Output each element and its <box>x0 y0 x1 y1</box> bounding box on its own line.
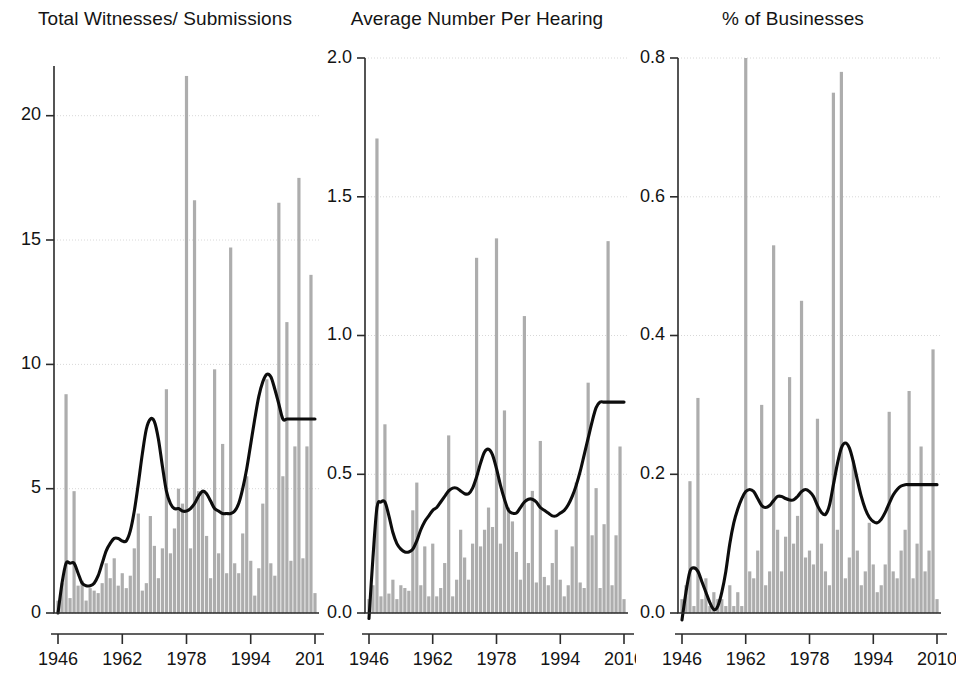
bar <box>431 544 434 613</box>
y-tick-label: 0.8 <box>640 47 665 67</box>
bar <box>531 491 534 613</box>
bar <box>399 585 402 613</box>
x-tick-label: 1946 <box>662 649 702 669</box>
three-panel-figure: Total Witnesses/ Submissions 05101520194… <box>0 0 956 684</box>
bar <box>145 583 148 613</box>
bar <box>931 349 934 613</box>
bar <box>101 583 104 613</box>
bar <box>479 546 482 613</box>
x-tick-label: 1994 <box>231 649 271 669</box>
bar <box>740 606 743 613</box>
bar <box>391 580 394 613</box>
x-tick-label: 1978 <box>166 649 206 669</box>
bar <box>595 488 598 613</box>
y-tick-label: 0.5 <box>327 463 352 483</box>
bar <box>752 578 755 613</box>
plot-area-average: 0.00.51.01.52.019461962197819942010 <box>318 0 636 684</box>
bar <box>696 398 699 613</box>
bar <box>85 601 88 613</box>
bar <box>688 481 691 613</box>
bar <box>379 596 382 613</box>
bar <box>760 405 763 613</box>
bar <box>535 582 538 613</box>
bar <box>927 551 930 613</box>
bar <box>579 582 582 613</box>
bar <box>459 530 462 613</box>
bar <box>273 576 276 613</box>
bar <box>217 553 220 613</box>
bar <box>919 447 922 614</box>
panel-average-number: Average Number Per Hearing 0.00.51.01.52… <box>318 0 636 684</box>
bar <box>245 476 248 613</box>
bar <box>483 530 486 613</box>
bar <box>117 586 120 613</box>
bar <box>133 548 136 613</box>
bar <box>197 491 200 613</box>
bar <box>419 585 422 613</box>
x-tick-label: 1946 <box>349 649 389 669</box>
bar <box>567 585 570 613</box>
bar <box>599 588 602 613</box>
bar <box>780 571 783 613</box>
bar <box>820 544 823 613</box>
y-tick-label: 2.0 <box>327 47 352 67</box>
bar <box>904 530 907 613</box>
bar <box>137 514 140 613</box>
bar <box>591 535 594 613</box>
bar <box>475 258 478 613</box>
bar <box>614 535 617 613</box>
x-tick-label: 1978 <box>476 649 516 669</box>
bar <box>768 571 771 613</box>
bar <box>415 483 418 613</box>
y-axis-ticks: 0.00.20.40.60.8 <box>640 47 678 622</box>
bar <box>403 588 406 613</box>
bar <box>451 596 454 613</box>
bar <box>880 585 883 613</box>
bar-series-average <box>367 138 625 613</box>
panel-total-witnesses: Total Witnesses/ Submissions 05101520194… <box>6 0 324 684</box>
bar <box>269 563 272 613</box>
bar <box>411 510 414 613</box>
bar <box>776 530 779 613</box>
bar <box>923 571 926 613</box>
bar <box>395 599 398 613</box>
bar <box>507 508 510 613</box>
bar <box>383 424 386 613</box>
bar <box>305 446 308 613</box>
bar <box>97 593 100 613</box>
bar <box>872 564 875 613</box>
bar <box>105 563 108 613</box>
bar <box>193 200 196 613</box>
bar <box>221 444 224 613</box>
bar <box>467 580 470 613</box>
bar <box>201 491 204 613</box>
bar <box>844 578 847 613</box>
bar <box>856 551 859 613</box>
bar <box>149 516 152 613</box>
bar <box>800 301 803 613</box>
bar <box>571 546 574 613</box>
bar <box>772 245 775 613</box>
bar <box>435 596 438 613</box>
bar <box>313 593 316 613</box>
bar <box>257 568 260 613</box>
bar <box>796 516 799 613</box>
bar <box>724 606 727 613</box>
bar <box>610 585 613 613</box>
bar <box>804 558 807 614</box>
x-tick-label: 2010 <box>917 649 956 669</box>
bar <box>387 594 390 613</box>
y-tick-label: 0.6 <box>640 186 665 206</box>
bar <box>852 460 855 613</box>
bar <box>606 241 609 613</box>
bar <box>153 546 156 613</box>
bar <box>915 544 918 613</box>
bar <box>539 441 542 613</box>
bar <box>602 524 605 613</box>
bar <box>463 558 466 614</box>
bar <box>587 383 590 613</box>
bar <box>309 275 312 613</box>
bar <box>64 394 67 613</box>
bar <box>181 504 184 613</box>
bar <box>836 530 839 613</box>
